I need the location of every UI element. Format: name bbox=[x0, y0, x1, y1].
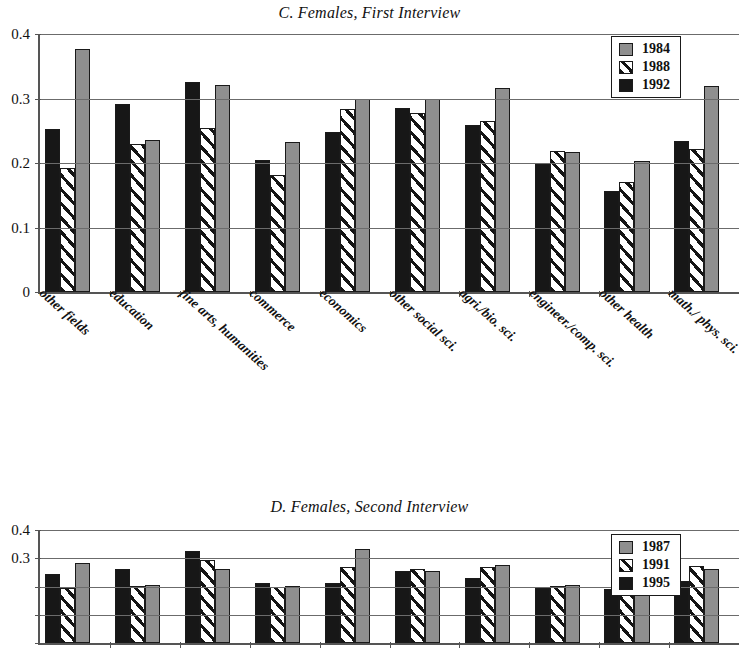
bar bbox=[215, 85, 230, 292]
legend-label-1988: 1988 bbox=[642, 60, 670, 74]
bar bbox=[425, 99, 440, 293]
bar bbox=[495, 565, 510, 643]
legend-swatch-1987-icon bbox=[619, 541, 633, 554]
bar bbox=[465, 578, 480, 643]
panel-c-females-first-interview: C. Females, First Interview 00.10.20.30.… bbox=[0, 0, 739, 470]
y-axis-tick bbox=[35, 34, 41, 35]
x-axis-tick bbox=[529, 642, 530, 648]
bar bbox=[340, 109, 355, 292]
panel-c-title: C. Females, First Interview bbox=[0, 0, 739, 22]
legend-label-1984: 1984 bbox=[642, 42, 670, 56]
gridline bbox=[40, 163, 739, 164]
bar bbox=[215, 569, 230, 643]
gridline bbox=[40, 615, 739, 616]
bar bbox=[410, 569, 425, 643]
legend-entry-1995: 1995 bbox=[619, 576, 670, 590]
x-axis-tick bbox=[180, 642, 181, 648]
bar bbox=[465, 125, 480, 292]
y-axis-tick bbox=[35, 558, 41, 559]
bar bbox=[425, 571, 440, 643]
bar bbox=[200, 560, 215, 643]
x-axis-tick bbox=[390, 642, 391, 648]
bar bbox=[689, 566, 704, 643]
bar bbox=[270, 175, 285, 292]
bar bbox=[60, 168, 75, 292]
bar bbox=[355, 549, 370, 643]
y-axis-tick bbox=[35, 587, 41, 588]
bar bbox=[480, 567, 495, 643]
bar bbox=[285, 142, 300, 292]
y-axis-tick bbox=[35, 228, 41, 229]
bar bbox=[185, 551, 200, 643]
bar bbox=[255, 583, 270, 643]
bar bbox=[619, 182, 634, 292]
legend-swatch-1984-icon bbox=[619, 43, 633, 56]
x-axis-category-label: commerce bbox=[247, 286, 298, 334]
bar bbox=[115, 104, 130, 292]
legend-label-1992: 1992 bbox=[642, 78, 670, 92]
legend-swatch-1991-icon bbox=[619, 559, 633, 572]
x-axis-tick bbox=[320, 642, 321, 648]
legend-entry-1992: 1992 bbox=[619, 78, 670, 92]
y-axis-tick bbox=[35, 163, 41, 164]
y-axis-tick bbox=[35, 615, 41, 616]
x-axis-tick bbox=[599, 642, 600, 648]
panel-c-plot-area: 00.10.20.30.4 1984 1988 1992 bbox=[0, 34, 739, 294]
legend-entry-1987: 1987 bbox=[619, 540, 670, 554]
bar bbox=[495, 88, 510, 292]
bar bbox=[200, 128, 215, 292]
legend-entry-1984: 1984 bbox=[619, 42, 670, 56]
x-axis-category-label: other health bbox=[597, 286, 656, 341]
bar bbox=[340, 567, 355, 643]
panel-d-title: D. Females, Second Interview bbox=[0, 490, 739, 516]
gridline bbox=[40, 99, 739, 100]
panel-c-legend: 1984 1988 1992 bbox=[611, 36, 681, 98]
gridline bbox=[40, 228, 739, 229]
x-axis-category-label: economics bbox=[317, 286, 370, 335]
bar bbox=[480, 121, 495, 292]
bar bbox=[410, 113, 425, 292]
legend-entry-1988: 1988 bbox=[619, 60, 670, 74]
x-axis-category-label: other social sci. bbox=[387, 286, 460, 354]
bar bbox=[130, 144, 145, 292]
x-axis-tick bbox=[669, 642, 670, 648]
bar bbox=[75, 563, 90, 643]
bar bbox=[185, 82, 200, 292]
bar bbox=[565, 152, 580, 292]
y-axis-tick bbox=[35, 99, 41, 100]
gridline bbox=[40, 34, 739, 35]
x-axis-category-label: agri./bio. sci. bbox=[457, 286, 520, 344]
panel-d-legend: 1987 1991 1995 bbox=[611, 534, 681, 596]
y-axis-tick-label: 0 bbox=[23, 285, 31, 300]
bar bbox=[45, 574, 60, 643]
legend-swatch-1992-icon bbox=[619, 79, 633, 92]
legend-entry-1991: 1991 bbox=[619, 558, 670, 572]
panel-c-x-axis-labels: other fieldseducationfine arts, humaniti… bbox=[38, 286, 739, 436]
y-axis-tick-label: 0.4 bbox=[11, 523, 30, 538]
y-axis-tick bbox=[35, 530, 41, 531]
x-axis-category-label: other fields bbox=[37, 286, 93, 338]
y-axis-tick bbox=[35, 643, 41, 644]
y-axis-tick-label: 0.3 bbox=[11, 551, 30, 566]
bar bbox=[355, 99, 370, 293]
panel-c-y-axis-labels: 00.10.20.30.4 bbox=[0, 34, 34, 294]
y-axis-tick-label: 0.4 bbox=[11, 27, 30, 42]
bar bbox=[325, 583, 340, 643]
legend-label-1991: 1991 bbox=[642, 558, 670, 572]
legend-label-1995: 1995 bbox=[642, 576, 670, 590]
y-axis-tick-label: 0.1 bbox=[11, 220, 30, 235]
gridline bbox=[40, 530, 739, 531]
bar bbox=[395, 108, 410, 292]
bar bbox=[45, 129, 60, 292]
legend-swatch-1995-icon bbox=[619, 577, 633, 590]
bar bbox=[255, 160, 270, 292]
legend-swatch-1988-icon bbox=[619, 61, 633, 74]
x-axis-tick bbox=[110, 642, 111, 648]
bar bbox=[550, 151, 565, 292]
x-axis-tick bbox=[250, 642, 251, 648]
bar bbox=[704, 569, 719, 643]
y-axis-tick-label: 0.2 bbox=[11, 156, 30, 171]
panel-d-females-second-interview: D. Females, Second Interview 0.30.4 1987… bbox=[0, 490, 739, 655]
x-axis-tick bbox=[459, 642, 460, 648]
panel-d-y-axis-labels: 0.30.4 bbox=[0, 530, 34, 645]
